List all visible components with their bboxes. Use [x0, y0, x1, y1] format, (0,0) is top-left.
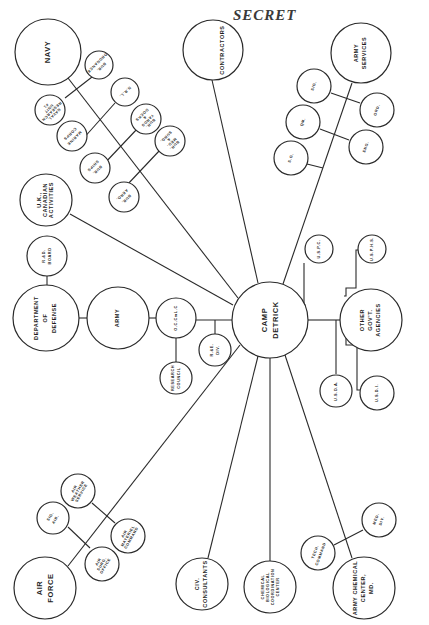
node-air-materiel[interactable]: AIR MATERIEL COMMAND [111, 519, 145, 553]
node-bur-aero[interactable]: BUR. AERO. [109, 182, 139, 212]
node-tech-command[interactable]: TECH. COMMAND [301, 536, 335, 570]
node-marine-corps[interactable]: MARINE CORPS [57, 121, 87, 151]
node-oc-cmlc[interactable]: O.C.CmL.C [156, 298, 196, 338]
node-air-weather[interactable]: AIR WEATHER SERVICE [61, 474, 95, 508]
node-research-council[interactable]: RESEARCH COUNCIL [160, 362, 192, 394]
ogov-l2: GOV'T. [367, 309, 373, 330]
af-l1: AIR [35, 581, 44, 596]
edge-as-qm-eng [320, 129, 349, 140]
node-qm[interactable]: QM. [286, 105, 320, 139]
navy-label: NAVY [43, 41, 52, 64]
node-contractors[interactable]: CONTRACTORS [183, 20, 243, 80]
af-l2: FORCE [46, 573, 55, 602]
rediv-l2: DIV. [216, 345, 220, 354]
edge-detrick-contractors [212, 80, 258, 283]
node-naval-research-unit[interactable]: NAVAL RESEARCH UNIT #1 [35, 95, 65, 125]
node-med-div[interactable]: MED. DIV. [362, 503, 396, 537]
secret-stamp: SECRET [233, 7, 297, 23]
rc-l2: COUNCIL [177, 367, 181, 389]
node-bur-ships[interactable]: BUR. SHIPS [80, 153, 110, 183]
node-air-force[interactable]: AIR FORCE [14, 557, 76, 619]
edge-detrick-civ [208, 356, 258, 558]
usdi-label: U.S.D.I. [375, 384, 379, 402]
node-navy[interactable]: NAVY [15, 19, 81, 85]
usda-label: U.S.D.A. [334, 381, 338, 401]
node-eng[interactable]: ENG. [349, 130, 383, 164]
node-air-surg-office[interactable]: AIR SURG. OFFICE [85, 547, 119, 581]
node-camp-detrick[interactable]: CAMP DETRICK [232, 282, 308, 358]
node-army[interactable]: ARMY [87, 287, 149, 349]
civ-l2: CONSULTANTS [202, 560, 208, 607]
node-army-services[interactable]: ARMY SERVICES [331, 23, 391, 83]
node-nrl[interactable]: N.R.L. [111, 78, 139, 106]
node-usdi[interactable]: U.S.D.I. [360, 376, 394, 410]
node-uk-canadian[interactable]: U.K., CANADIAN ACTIVITIES [20, 174, 72, 226]
camp-detrick-line2: DETRICK [271, 301, 280, 339]
edge-as-sg [307, 164, 323, 168]
node-rd-board[interactable]: R.&D. BOARD [27, 236, 67, 276]
ogov-l3: AGENCIES [375, 303, 381, 337]
contractors-label: CONTRACTORS [219, 25, 225, 74]
organization-chart: CAMP DETRICK NAVY BUR. ORDNANCE N.R.L. [0, 0, 429, 625]
node-dept-defense[interactable]: DEPARTMENT OF DEFENSE [13, 285, 79, 351]
acc-l2: CENTER, [360, 574, 366, 602]
dod-l1: DEPARTMENT [33, 296, 39, 340]
edge-other-usphs [344, 250, 358, 296]
node-civ-consultants[interactable]: CIV. CONSULTANTS [176, 558, 228, 610]
edge-acc-tech-med [334, 530, 363, 545]
occmlc-label: O.C.CmL.C [174, 305, 178, 330]
dod-l2: OF [42, 314, 48, 323]
ogov-l1: OTHER [359, 309, 365, 331]
army-services-l2: SERVICES [361, 37, 367, 70]
edge-navy-medsurg [127, 150, 160, 185]
civ-l1: CIV. [194, 578, 200, 591]
node-bur-ordnance[interactable]: BUR. ORDNANCE [85, 51, 113, 79]
rediv-l1: R.&E. [210, 343, 214, 356]
node-other-govt[interactable]: OTHER GOV'T. AGENCIES [340, 289, 402, 351]
camp-detrick-line1: CAMP [260, 308, 269, 332]
acc-l3: MD. [368, 582, 374, 594]
rc-l1: RESEARCH [171, 365, 175, 391]
dod-l3: DEFENSE [51, 303, 57, 333]
rd-l2: BOARD [48, 248, 52, 265]
army-label: ARMY [114, 309, 120, 328]
rd-l1: R.&D. [42, 249, 46, 262]
node-sig[interactable]: SIG. [297, 69, 331, 103]
cbcc-l4: CENTER [276, 577, 280, 596]
node-bur-yards-docks[interactable]: BUR. YARDS & DOCKS [131, 104, 161, 134]
edge-af-sigair-surg [68, 527, 90, 548]
node-army-chem-center[interactable]: ARMY CHEMICAL CENTER, MD. [333, 557, 395, 619]
node-bur-med-surg[interactable]: BUR. MED. & SURG. [155, 126, 185, 156]
node-chem-bio-center[interactable]: CHEMICAL BIOLOGICAL COORDINATION CENTER [244, 561, 296, 613]
node-uspc[interactable]: U.S.P.C. [305, 235, 333, 263]
usphs-label: U.S.P.H.S. [370, 237, 374, 261]
cbcc-l1: CHEMICAL [261, 575, 265, 600]
edge-navy-yards [103, 128, 138, 165]
army-services-l1: ARMY [353, 44, 359, 63]
node-usda[interactable]: U.S.D.A. [320, 375, 352, 407]
uk-l3: ACTIVITIES [48, 182, 54, 218]
acc-l1: ARMY CHEMICAL [352, 561, 358, 615]
uspc-label: U.S.P.C. [317, 239, 321, 258]
node-re-div[interactable]: R.&E. DIV. [199, 334, 231, 366]
node-ord[interactable]: ORD. [360, 93, 394, 127]
node-sig-air[interactable]: SIG. AIR. [37, 502, 69, 534]
node-usphs[interactable]: U.S.P.H.S. [358, 235, 386, 263]
cbcc-l3: COORDINATION [271, 569, 275, 606]
node-sg[interactable]: S.G. [274, 141, 308, 175]
cbcc-l2: BIOLOGICAL [266, 572, 270, 602]
